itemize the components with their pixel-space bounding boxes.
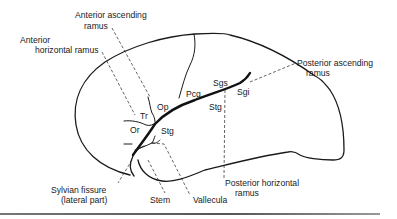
abbr-sgs: Sgs	[213, 78, 228, 88]
temporal-lobe-outline	[131, 156, 135, 176]
bottom-rule	[0, 213, 380, 215]
label-posterior-horizontal-ramus: Posterior horizontal	[225, 178, 299, 188]
label-posterior-ascending-ramus-2: ramus	[306, 68, 330, 78]
label-sylvian-fissure-2: (lateral part)	[61, 195, 107, 205]
leader-anterior-ascending	[112, 28, 150, 97]
abbr-op: Op	[157, 102, 169, 112]
leader-posterior-ascending	[250, 63, 296, 82]
label-anterior-ascending-ramus: Anterior ascending	[75, 10, 147, 20]
abbr-or: Or	[130, 125, 140, 135]
abbr-stg-lower: Stg	[161, 126, 174, 136]
label-stem: Stem	[150, 195, 170, 205]
label-anterior-ascending-ramus-2: ramus	[84, 21, 108, 31]
label-anterior-horizontal-ramus-2: horizontal ramus	[35, 45, 99, 55]
abbr-tr: Tr	[140, 111, 148, 121]
anterior-ascending-ramus-line	[148, 97, 155, 122]
sylvian-fissure-diagram: Anterior ascending ramus Anterior horizo…	[0, 0, 397, 219]
label-posterior-horizontal-ramus-2: ramus	[235, 188, 259, 198]
abbr-pcg: Pcg	[186, 89, 201, 99]
abbr-sgi: Sgi	[237, 87, 250, 97]
leader-vallecula	[152, 143, 190, 195]
label-sylvian-fissure: Sylvian fissure	[51, 185, 107, 195]
leader-anterior-horizontal	[102, 52, 135, 115]
label-posterior-ascending-ramus: Posterior ascending	[297, 58, 373, 68]
sylvian-fissure-line	[133, 73, 250, 155]
label-anterior-horizontal-ramus: Anterior	[20, 35, 50, 45]
label-vallecula: Vallecula	[193, 195, 227, 205]
abbr-stg-upper: Stg	[209, 102, 222, 112]
